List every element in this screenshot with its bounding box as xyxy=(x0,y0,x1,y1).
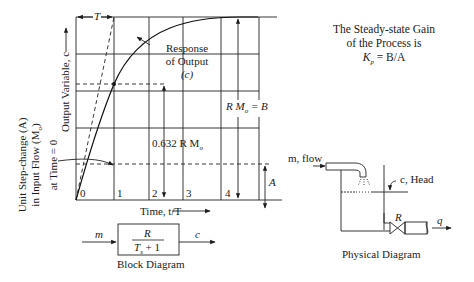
block-diagram-caption: Block Diagram xyxy=(117,258,185,270)
tangent-line xyxy=(76,17,114,200)
inflow-label: m, flow xyxy=(288,152,322,164)
step-description: Unit Step-change (A) in Input Flow (Mo) … xyxy=(16,95,60,235)
x-tick-4: 4 xyxy=(225,187,231,199)
x-tick-3: 3 xyxy=(186,187,192,199)
time-constant-label: T xyxy=(93,10,101,22)
x-axis-label: Time, t/T xyxy=(140,205,181,217)
x-tick-2: 2 xyxy=(152,187,158,199)
physical-diagram-caption: Physical Diagram xyxy=(342,248,421,260)
response-label: Response of Output (c) xyxy=(157,42,217,81)
x-tick-1: 1 xyxy=(117,187,123,199)
y-axis-label: Output Variable, c xyxy=(59,52,71,132)
block-output-label: c xyxy=(195,228,200,240)
gain-note: The Steady-state Gain of the Process is … xyxy=(300,22,468,69)
head-label: c, Head xyxy=(400,173,434,185)
transfer-denominator: Ts + 1 xyxy=(134,241,160,258)
valve-label: R xyxy=(395,211,402,223)
block-input-label: m xyxy=(95,228,103,240)
steady-state-label: R Mo = B xyxy=(225,100,269,117)
x-tick-0: 0 xyxy=(80,187,86,199)
fraction-label: 0.632 R Mo xyxy=(152,137,203,154)
outflow-label: q xyxy=(437,214,443,226)
step-label: A xyxy=(269,176,276,188)
transfer-numerator: R xyxy=(144,227,151,239)
